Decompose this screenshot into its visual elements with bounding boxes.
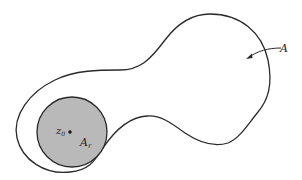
arrow-head-icon	[246, 54, 253, 60]
disk-label-base: A	[80, 136, 88, 149]
disk-label-subscript: r	[88, 142, 91, 150]
point-z0-dot	[68, 130, 71, 133]
point-z0-label: z0	[56, 126, 65, 137]
disk-ar	[37, 97, 107, 167]
region-diagram: z0 Ar A	[0, 0, 302, 180]
disk-ar-label: Ar	[80, 137, 91, 150]
point-label-subscript: 0	[61, 130, 65, 137]
region-a-label: A	[280, 43, 288, 54]
diagram-canvas	[0, 0, 302, 180]
